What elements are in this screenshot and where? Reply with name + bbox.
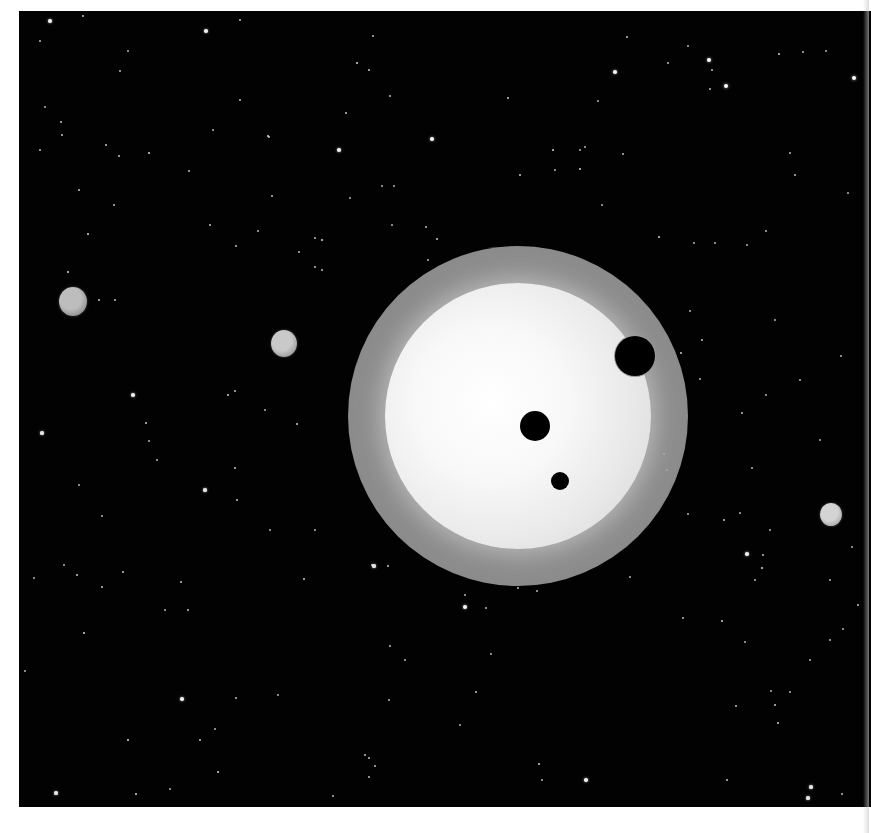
star-point xyxy=(825,50,827,52)
star-point xyxy=(239,99,241,101)
star-point xyxy=(188,170,190,172)
star-point xyxy=(774,319,776,321)
star-point xyxy=(368,69,371,72)
star-point xyxy=(754,579,756,581)
star-point xyxy=(388,699,390,701)
star-point xyxy=(707,58,711,62)
star-point xyxy=(78,189,81,192)
star-point xyxy=(314,237,316,239)
star-point xyxy=(517,587,519,589)
star-point xyxy=(349,197,351,199)
star-point xyxy=(622,153,624,155)
star-point xyxy=(552,149,555,152)
star-point xyxy=(536,590,538,592)
star-point xyxy=(490,653,492,655)
star-point xyxy=(436,238,439,241)
star-point xyxy=(554,169,556,171)
star-point xyxy=(24,670,26,672)
star-point xyxy=(332,795,334,797)
star-point xyxy=(794,174,796,176)
star-point xyxy=(761,567,764,570)
star-point xyxy=(851,546,853,548)
star-point xyxy=(60,121,62,123)
star-point xyxy=(427,259,429,261)
star-point xyxy=(227,394,230,397)
star-point xyxy=(802,51,804,53)
star-point xyxy=(601,204,603,206)
star-point xyxy=(777,722,780,725)
star-point xyxy=(40,431,43,434)
star-point xyxy=(475,691,478,694)
star-point xyxy=(321,269,323,271)
transit-large-planet xyxy=(615,336,655,376)
star-point xyxy=(724,84,729,89)
star-point xyxy=(271,195,273,197)
star-point xyxy=(613,70,617,74)
star-point xyxy=(629,576,631,578)
star-point xyxy=(235,697,237,699)
star-point xyxy=(164,609,166,611)
star-point xyxy=(217,771,220,774)
star-point xyxy=(464,594,466,596)
star-point xyxy=(840,355,842,357)
star-point xyxy=(789,152,791,154)
star-point xyxy=(819,439,821,441)
star-point xyxy=(809,785,812,788)
star-point xyxy=(459,724,461,726)
star-point xyxy=(726,779,729,782)
star-point xyxy=(841,793,843,795)
star-point xyxy=(209,224,211,226)
star-point xyxy=(857,604,859,606)
star-point xyxy=(321,239,324,242)
star-point xyxy=(214,728,216,730)
star-point xyxy=(789,691,791,693)
star-point xyxy=(842,628,844,630)
star-point xyxy=(119,70,121,72)
star-point xyxy=(39,149,41,151)
star-point xyxy=(82,15,84,17)
star-point xyxy=(699,378,701,380)
transit-small-planet xyxy=(551,472,569,490)
star-point xyxy=(714,242,716,244)
star-point xyxy=(799,379,801,381)
star-point xyxy=(723,519,726,522)
star-point xyxy=(680,352,683,355)
star-point xyxy=(689,310,691,312)
star-point xyxy=(391,224,393,226)
star-point xyxy=(430,137,434,141)
star-point xyxy=(135,793,138,796)
star-point xyxy=(61,134,63,136)
star-point xyxy=(463,605,467,609)
star-point xyxy=(626,36,628,38)
star-point xyxy=(389,95,391,97)
star-point xyxy=(765,230,767,232)
star-point xyxy=(169,788,171,790)
star-point xyxy=(145,422,148,425)
star-point xyxy=(264,409,266,411)
star-point xyxy=(584,146,586,148)
star-point xyxy=(709,88,711,90)
star-point xyxy=(745,552,749,556)
star-point xyxy=(337,148,341,152)
star-point xyxy=(345,112,347,114)
transit-medium-planet xyxy=(520,411,550,441)
star-point xyxy=(298,251,300,253)
star-point xyxy=(658,236,661,239)
star-point xyxy=(48,19,52,23)
star-point xyxy=(204,29,208,33)
star-point xyxy=(393,185,395,187)
star-point xyxy=(387,565,389,567)
star-point xyxy=(356,62,359,65)
star-point xyxy=(303,578,306,581)
space-background xyxy=(19,11,871,807)
star-point xyxy=(118,155,120,157)
star-point xyxy=(774,704,777,707)
star-point xyxy=(829,579,831,581)
star-point xyxy=(113,204,115,206)
star-point xyxy=(98,299,101,302)
star-point xyxy=(711,69,713,71)
star-point xyxy=(212,129,214,131)
star-point xyxy=(735,705,738,708)
star-point xyxy=(296,423,299,426)
star-point xyxy=(101,515,103,517)
